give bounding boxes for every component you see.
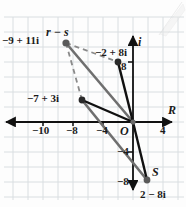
- label-point-neg7-plus-3i: −7 + 3i: [27, 93, 59, 104]
- point-origin: [130, 119, 135, 124]
- label-point-2-minus-8i: 2 − 8i: [140, 189, 166, 200]
- label-vector-r-minus-s: r − s: [46, 26, 69, 38]
- label-point-neg9-plus-11i: −9 + 11i: [2, 35, 39, 46]
- complex-plane-figure: r − s −9 + 11i −2 + 8i 8 −7 + 3i R i O −…: [0, 0, 186, 207]
- point-sum: [79, 97, 86, 104]
- point-r-minus-s: [62, 39, 69, 46]
- tick-label-neg8-x: −8: [66, 125, 78, 136]
- axis-label-real: R: [168, 104, 176, 116]
- tick-label-neg10: −10: [32, 125, 49, 136]
- tick-label-8: 8: [121, 61, 127, 72]
- tick-label-4: 4: [160, 125, 166, 136]
- tick-label-neg4-x: −4: [96, 125, 108, 136]
- label-point-neg2-plus-8i: −2 + 8i: [95, 47, 127, 58]
- point-s: [144, 177, 151, 184]
- tick-label-neg4-y: −4: [117, 146, 129, 157]
- origin-label: O: [120, 125, 129, 137]
- axis-label-imaginary: i: [138, 36, 141, 48]
- tick-label-neg8-y: −8: [117, 176, 129, 187]
- label-point-s: S: [152, 166, 159, 178]
